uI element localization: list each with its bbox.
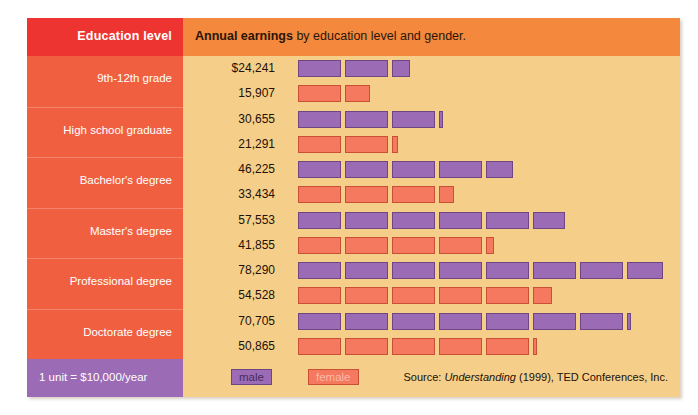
unit-block-partial: [627, 262, 663, 279]
education-level-sidebar: 9th-12th grade High school graduate Bach…: [27, 56, 183, 359]
unit-block: [298, 287, 341, 304]
unit-block: [345, 186, 388, 203]
unit-block: [298, 313, 341, 330]
legend-item-female: female: [308, 369, 359, 385]
unit-block: [345, 338, 388, 355]
bar-value-label: 54,528: [183, 288, 275, 302]
unit-block: [298, 85, 341, 102]
unit-block: [392, 212, 435, 229]
bar-row-female: 54,528: [183, 283, 680, 308]
unit-block: [580, 313, 623, 330]
sidebar-label: Master's degree: [90, 225, 172, 237]
unit-block: [298, 111, 341, 128]
bar-row-female: 21,291: [183, 132, 680, 157]
unit-block: [345, 161, 388, 178]
unit-block: [439, 212, 482, 229]
sidebar-item-masters-degree: Master's degree: [27, 208, 183, 259]
footer-unit-cell: 1 unit = $10,000/year: [27, 359, 183, 397]
chart-title-rest: by education level and gender.: [293, 29, 466, 43]
unit-block: [486, 212, 529, 229]
unit-block: [298, 212, 341, 229]
unit-block: [298, 186, 341, 203]
unit-block: [392, 313, 435, 330]
unit-block: [486, 313, 529, 330]
bar-value-label: 21,291: [183, 137, 275, 151]
unit-block-partial: [439, 186, 454, 203]
sidebar-label: Doctorate degree: [83, 326, 172, 338]
sidebar-item-high-school-graduate: High school graduate: [27, 107, 183, 158]
unit-block: [392, 111, 435, 128]
legend-item-male: male: [231, 369, 272, 385]
bar-row-male: $24,241: [183, 56, 680, 81]
unit-block: [486, 338, 529, 355]
unit-block: [345, 136, 388, 153]
chart-header: Education level Annual earnings by educa…: [27, 18, 680, 56]
bar-row-female: 41,855: [183, 233, 680, 258]
sidebar-label: 9th-12th grade: [97, 72, 172, 84]
sidebar-label: Bachelor's degree: [80, 174, 172, 186]
sidebar-item-professional-degree: Professional degree: [27, 258, 183, 309]
unit-block: [392, 338, 435, 355]
unit-block: [345, 237, 388, 254]
unit-block-partial: [392, 136, 398, 153]
unit-block-partial: [345, 85, 370, 102]
unit-block: [298, 262, 341, 279]
bar-value-label: $24,241: [183, 61, 275, 75]
unit-block: [580, 262, 623, 279]
unit-block: [345, 60, 388, 77]
unit-block: [439, 161, 482, 178]
unit-block-partial: [533, 212, 565, 229]
bar-value-label: 70,705: [183, 314, 275, 328]
unit-block: [345, 111, 388, 128]
unit-block: [392, 186, 435, 203]
sidebar-item-bachelors-degree: Bachelor's degree: [27, 157, 183, 208]
unit-block: [298, 338, 341, 355]
unit-block: [486, 262, 529, 279]
header-education-level-cell: Education level: [27, 18, 183, 56]
unit-block: [392, 237, 435, 254]
unit-block: [345, 212, 388, 229]
bar-value-label: 30,655: [183, 112, 275, 126]
unit-block-partial: [392, 60, 410, 77]
bar-row-female: 15,907: [183, 81, 680, 106]
bar-value-label: 50,865: [183, 339, 275, 353]
unit-block: [439, 338, 482, 355]
bar-value-label: 15,907: [183, 86, 275, 100]
unit-block: [392, 287, 435, 304]
bar-value-label: 33,434: [183, 187, 275, 201]
unit-block: [345, 313, 388, 330]
unit-block: [533, 262, 576, 279]
unit-block-partial: [533, 338, 537, 355]
unit-block: [533, 313, 576, 330]
unit-block: [439, 287, 482, 304]
bar-row-male: 70,705: [183, 309, 680, 334]
chart-title: Annual earnings by education level and g…: [195, 29, 466, 43]
chart-footer: 1 unit = $10,000/year male female Source…: [27, 359, 680, 397]
bar-chart-plot-area: $24,241 15,907 30,655 21,291 46,225 33,4…: [183, 56, 680, 359]
unit-block: [345, 262, 388, 279]
bar-value-label: 46,225: [183, 162, 275, 176]
bar-value-label: 57,553: [183, 213, 275, 227]
unit-block: [345, 287, 388, 304]
unit-block-partial: [486, 161, 513, 178]
bar-row-female: 50,865: [183, 334, 680, 359]
header-title-cell: Annual earnings by education level and g…: [183, 18, 680, 56]
source-title: Understanding: [444, 371, 516, 383]
sidebar-label: Professional degree: [70, 275, 172, 287]
footer-legend-cell: male female Source: Understanding (1999)…: [183, 359, 680, 397]
unit-block: [392, 161, 435, 178]
bar-row-male: 30,655: [183, 107, 680, 132]
chart-title-bold: Annual earnings: [195, 29, 293, 43]
sidebar-item-9th-12th-grade: 9th-12th grade: [27, 56, 183, 107]
source-credit: Source: Understanding (1999), TED Confer…: [403, 371, 668, 383]
unit-block: [392, 262, 435, 279]
unit-block: [439, 237, 482, 254]
unit-block-partial: [627, 313, 631, 330]
unit-block: [439, 262, 482, 279]
unit-block: [439, 313, 482, 330]
unit-block: [298, 237, 341, 254]
unit-block: [298, 136, 341, 153]
unit-note-label: 1 unit = $10,000/year: [39, 371, 147, 383]
unit-block: [298, 60, 341, 77]
unit-block-partial: [439, 111, 443, 128]
